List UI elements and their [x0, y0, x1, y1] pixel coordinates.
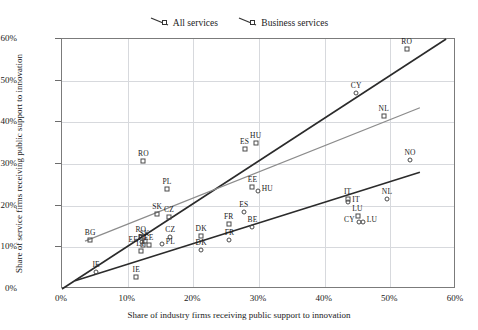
legend-item-all-services[interactable]: All services: [150, 16, 218, 28]
data-point-fr[interactable]: [226, 222, 231, 227]
data-point-ro[interactable]: [404, 47, 409, 52]
data-point-label: CZ: [165, 225, 175, 234]
data-point-lu[interactable]: [355, 214, 360, 219]
y-tick-label: 40%: [0, 116, 17, 126]
data-point-hu[interactable]: [255, 189, 260, 194]
data-point-ee[interactable]: [140, 240, 145, 245]
data-point-nl[interactable]: [381, 114, 386, 119]
data-point-label: IE: [132, 265, 139, 274]
data-point-lu[interactable]: [360, 219, 365, 224]
data-point-ie[interactable]: [94, 270, 99, 275]
x-tick-label: 0%: [41, 293, 81, 303]
y-tick-label: 10%: [0, 241, 17, 251]
data-point-label: PL: [162, 177, 171, 186]
x-tick-label: 50%: [369, 293, 409, 303]
data-point-label: ES: [240, 137, 249, 146]
x-tick-label: 20%: [172, 293, 212, 303]
y-tick-label: 50%: [0, 75, 17, 85]
chart-legend: All services Business services: [0, 16, 478, 28]
data-point-cz[interactable]: [167, 215, 172, 220]
trendlines: [62, 39, 456, 289]
data-point-label: EE: [248, 175, 258, 184]
data-point-label: BE: [247, 215, 257, 224]
data-point-hu[interactable]: [253, 141, 258, 146]
x-tick-label: 10%: [107, 293, 147, 303]
chart-figure: All services Business services Share of …: [0, 0, 478, 330]
data-point-label: RO: [138, 149, 149, 158]
y-tick-label: 30%: [0, 158, 17, 168]
data-point-be[interactable]: [250, 224, 255, 229]
x-tick-label: 60%: [435, 293, 475, 303]
x-axis-title: Share of industry firms receiving public…: [0, 310, 478, 320]
data-point-label: CY: [344, 215, 355, 224]
data-point-label: RO: [401, 37, 412, 46]
data-point-label: HU: [262, 184, 273, 193]
data-point-es[interactable]: [241, 210, 246, 215]
legend-label-all-services: All services: [173, 18, 218, 28]
data-point-label: ES: [239, 200, 248, 209]
data-point-label: LU: [367, 215, 377, 224]
y-tick-label: 0%: [0, 283, 17, 293]
x-tick-label: 40%: [304, 293, 344, 303]
data-point-ee[interactable]: [250, 184, 255, 189]
data-point-label: FR: [224, 212, 234, 221]
data-point-ee[interactable]: [146, 242, 151, 247]
data-point-label: HU: [250, 131, 261, 140]
data-point-it[interactable]: [346, 199, 351, 204]
data-point-label: NO: [404, 148, 415, 157]
plot-area: RONLHUESROEEPLITLUSKCZFRDKBGROSKPTEELTIE…: [61, 38, 455, 288]
data-point-label: PL: [166, 237, 175, 246]
data-point-lt[interactable]: [138, 248, 143, 253]
data-point-sk[interactable]: [155, 212, 160, 217]
data-point-fr[interactable]: [227, 237, 232, 242]
y-tick-label: 60%: [0, 33, 17, 43]
data-point-bg[interactable]: [88, 237, 93, 242]
data-point-dk[interactable]: [199, 247, 204, 252]
data-point-label: NL: [379, 104, 389, 113]
data-point-label: IT: [344, 187, 351, 196]
data-point-label: DK: [196, 224, 207, 233]
data-point-cy[interactable]: [354, 91, 359, 96]
data-point-label: DK: [196, 238, 207, 247]
data-point-label: EE: [129, 235, 139, 244]
x-tick-label: 30%: [238, 293, 278, 303]
data-point-label: CZ: [164, 205, 174, 214]
legend-label-business-services: Business services: [261, 18, 328, 28]
data-point-label: IE: [92, 260, 99, 269]
data-point-label: SK: [152, 202, 162, 211]
data-point-ie[interactable]: [134, 274, 139, 279]
line-marker-icon: [238, 16, 258, 26]
data-point-pl[interactable]: [159, 242, 164, 247]
legend-item-business-services[interactable]: Business services: [238, 16, 328, 28]
data-point-label: FR: [225, 228, 235, 237]
data-point-label: NL: [382, 187, 392, 196]
data-point-pl[interactable]: [165, 187, 170, 192]
line-marker-icon: [150, 16, 170, 26]
data-point-label: CY: [351, 81, 362, 90]
data-point-label: LU: [352, 204, 362, 213]
data-point-label: IT: [352, 195, 359, 204]
y-tick-label: 20%: [0, 200, 17, 210]
trendline-diagonal-reference: [62, 39, 446, 289]
data-point-nl[interactable]: [385, 197, 390, 202]
data-point-no[interactable]: [408, 157, 413, 162]
data-point-ro[interactable]: [141, 158, 146, 163]
data-point-label: BG: [85, 228, 96, 237]
trendline-business-services-fit: [75, 172, 420, 280]
data-point-es[interactable]: [242, 147, 247, 152]
